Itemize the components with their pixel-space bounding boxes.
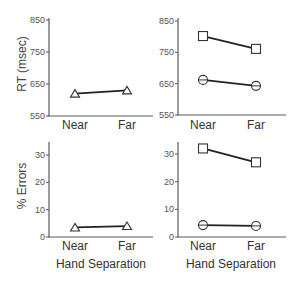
x-axis-title-right: Hand Separation [186, 257, 276, 271]
x-category-label-near: Near [190, 239, 216, 253]
x-category-label-near: Near [190, 118, 216, 132]
panel-bottom-left: 0102030NearFar [35, 142, 153, 253]
y-tick-label: 20 [164, 177, 174, 187]
y-tick-label: 850 [159, 16, 174, 26]
x-category-label-far: Far [118, 118, 136, 132]
y-tick-label: 750 [159, 47, 174, 57]
x-category-label-near: Near [62, 239, 88, 253]
square-marker-icon [199, 144, 208, 153]
series-line-circle [203, 225, 256, 226]
y-tick-label: 750 [30, 47, 45, 57]
y-tick-label: 650 [30, 79, 45, 89]
series-line-square [203, 36, 256, 49]
series-line-triangle [75, 226, 127, 227]
y-tick-label: 0 [40, 232, 45, 242]
y-tick-label: 30 [164, 149, 174, 159]
y-tick-label: 650 [159, 79, 174, 89]
square-marker-icon [199, 32, 208, 41]
panel-top-left: 550650750850NearFar [30, 15, 153, 132]
y-tick-label: 850 [30, 15, 45, 25]
y-tick-label: 550 [30, 111, 45, 121]
panel-bottom-right: 0102030NearFar [164, 142, 286, 253]
y-tick-label: 10 [35, 205, 45, 215]
square-marker-icon [252, 158, 261, 167]
series-line-triangle [75, 90, 127, 93]
x-category-label-far: Far [118, 239, 136, 253]
y-tick-label: 0 [169, 232, 174, 242]
series-line-circle [203, 80, 256, 86]
y-tick-label: 20 [35, 177, 45, 187]
x-category-label-far: Far [247, 239, 265, 253]
figure: RT (msec) % Errors 550650750850NearFar55… [0, 0, 299, 284]
errors-y-axis-label: % Errors [15, 163, 29, 210]
x-category-label-far: Far [247, 118, 265, 132]
y-tick-label: 30 [35, 150, 45, 160]
y-tick-label: 10 [164, 204, 174, 214]
panel-top-right: 550650750850NearFar [159, 16, 286, 132]
x-category-label-near: Near [62, 118, 88, 132]
square-marker-icon [252, 44, 261, 53]
x-axis-title-left: Hand Separation [56, 257, 146, 271]
series-line-square [203, 148, 256, 162]
panels: 550650750850NearFar550650750850NearFar01… [30, 15, 286, 253]
y-tick-label: 550 [159, 110, 174, 120]
rt-y-axis-label: RT (msec) [15, 36, 29, 92]
